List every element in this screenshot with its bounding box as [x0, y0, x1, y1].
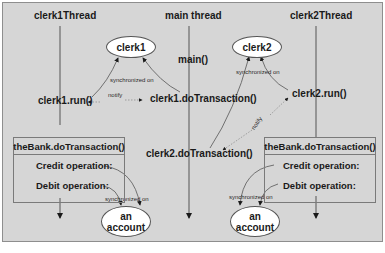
account-object-left: an account: [101, 206, 151, 237]
main-thread-label: main thread: [165, 10, 222, 22]
debit-operation-label: Debit operation:: [36, 180, 109, 191]
bank-box-title: theBank.doTransaction(): [265, 138, 375, 155]
clerk2-run-call: clerk2.run(): [292, 88, 346, 100]
account-object-right: an account: [230, 206, 280, 237]
bank-dotransaction-box-right: theBank.doTransaction() Credit operation…: [264, 137, 376, 203]
clerk1-run-call: clerk1.run(): [38, 95, 92, 107]
bank-dotransaction-box-left: theBank.doTransaction() Credit operation…: [13, 137, 125, 203]
clerk2-dotransaction-call: clerk2.doTransaction(): [146, 148, 253, 160]
account-line1: an: [120, 211, 132, 222]
account-line1: an: [249, 211, 261, 222]
sync-label-clerk1: synchronized on: [110, 77, 154, 84]
bank-box-title: theBank.doTransaction(): [14, 138, 124, 155]
account-line2: account: [107, 222, 145, 233]
notify-label-1: notify: [108, 92, 122, 99]
debit-operation-label: Debit operation:: [283, 180, 356, 191]
clerk2-thread-label: clerk2Thread: [290, 10, 352, 22]
credit-operation-label: Credit operation:: [36, 160, 113, 171]
diagram-connectors: [0, 0, 385, 253]
main-call: main(): [178, 54, 208, 66]
clerk1-thread-label: clerk1Thread: [34, 10, 96, 22]
account-line2: account: [236, 222, 274, 233]
clerk2-object: clerk2: [232, 36, 282, 58]
sync-label-clerk2: synchronized on: [236, 69, 280, 76]
clerk1-object: clerk1: [106, 36, 156, 58]
clerk1-dotransaction-call: clerk1.doTransaction(): [150, 93, 257, 105]
credit-operation-label: Credit operation:: [283, 160, 360, 171]
